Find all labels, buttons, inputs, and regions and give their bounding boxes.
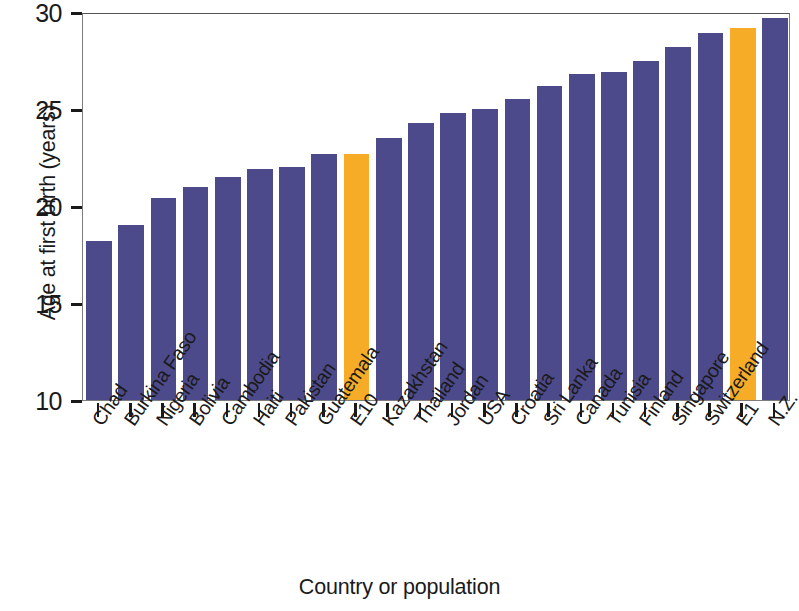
bar-burkina-faso (118, 225, 144, 400)
bar-canada (569, 74, 595, 400)
bar-sri-lanka (537, 86, 563, 400)
bar-n-z (762, 18, 788, 400)
bar-tunisia (601, 72, 627, 400)
y-axis-tick-mark (71, 400, 82, 403)
bar-chart-figure: Age at first birth (years) 1015202530 Ch… (0, 0, 799, 611)
y-axis-tick-mark (71, 109, 82, 112)
x-axis-tick-labels: ChadBurkina FasoNigeriaBoliviaCambodiaHa… (82, 418, 799, 568)
bar-usa (472, 109, 498, 400)
bar-chad (86, 241, 112, 400)
x-axis-title: Country or population (0, 575, 799, 600)
y-axis-tick-mark (71, 303, 82, 306)
bar-pakistan (279, 167, 305, 400)
y-axis-tick-mark (71, 206, 82, 209)
bar-switzerland (698, 33, 724, 400)
y-axis-tick-label: 10 (18, 389, 62, 414)
y-axis-tick-mark (71, 12, 82, 15)
y-axis-tick-label: 20 (18, 195, 62, 220)
y-axis-tick-label: 30 (18, 1, 62, 26)
bar-singapore (665, 47, 691, 400)
bar-kazakhstan (376, 138, 402, 400)
bar-cambodia (215, 177, 241, 400)
y-axis-tick-label: 15 (18, 292, 62, 317)
y-axis-tick-label: 25 (18, 98, 62, 123)
y-axis-tick-labels: 1015202530 (10, 0, 62, 611)
bar-bolivia (183, 187, 209, 400)
bar-finland (633, 61, 659, 401)
bar-croatia (505, 99, 531, 400)
